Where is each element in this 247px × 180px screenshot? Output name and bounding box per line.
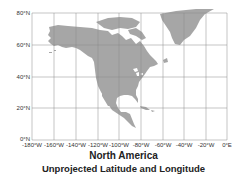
newfoundland xyxy=(163,58,168,63)
x-tick-label: -160°W xyxy=(44,142,64,148)
y-tick-label-80n: 80°N xyxy=(2,10,30,16)
map-subtitle: Unprojected Latitude and Longitude xyxy=(0,163,247,174)
x-tick-label: 0°E xyxy=(222,142,232,148)
x-tick-label: -100°W xyxy=(109,142,129,148)
map-title: North America xyxy=(0,150,247,161)
x-tick-label: -120°W xyxy=(88,142,108,148)
land-masses xyxy=(48,9,214,128)
x-tick-label: -60°W xyxy=(155,142,172,148)
x-tick-label: -40°W xyxy=(176,142,193,148)
hispaniola xyxy=(151,110,155,112)
x-tick-label: -80°W xyxy=(133,142,150,148)
x-tick-label: -180°W xyxy=(22,142,42,148)
aleutian-island xyxy=(54,50,56,51)
x-tick-label: -140°W xyxy=(66,142,86,148)
y-tick-label-60n: 60°N xyxy=(2,42,30,48)
north-america-mainland xyxy=(48,25,158,128)
arctic-islands xyxy=(96,17,140,30)
y-tick-label-40n: 40°N xyxy=(2,74,30,80)
y-tick-label-20n: 20°N xyxy=(2,105,30,111)
aleutian-island xyxy=(49,52,52,53)
x-tick-label: -20°W xyxy=(198,142,215,148)
